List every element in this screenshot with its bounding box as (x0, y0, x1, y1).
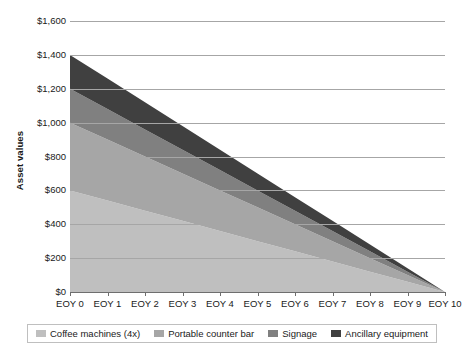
x-axis-tick-mark (445, 292, 446, 296)
x-axis-tick-mark (333, 292, 334, 296)
gridline (70, 190, 445, 191)
gridline (70, 55, 445, 56)
x-axis-tick-mark (295, 292, 296, 296)
x-axis-tick-label: EOY 8 (356, 298, 384, 310)
legend-swatch-icon (331, 330, 341, 337)
plot-area (70, 21, 445, 292)
legend-swatch-icon (268, 330, 278, 337)
x-axis-tick-mark (220, 292, 221, 296)
legend-item[interactable]: Portable counter bar (154, 328, 254, 339)
x-axis-tick-label: EOY 7 (319, 298, 347, 310)
legend-swatch-icon (36, 330, 46, 337)
y-axis-tick-label: $0 (18, 287, 66, 297)
y-axis-tick-label: $400 (18, 219, 66, 229)
gridline (70, 157, 445, 158)
y-axis-tick-label: $800 (18, 152, 66, 162)
x-axis-tick-label: EOY 0 (56, 298, 84, 310)
gridline (70, 89, 445, 90)
x-axis-tick-label: EOY 1 (94, 298, 122, 310)
x-axis-tick-mark (408, 292, 409, 296)
gridline (70, 21, 445, 22)
legend-item[interactable]: Signage (268, 328, 317, 339)
gridline (70, 224, 445, 225)
legend-item[interactable]: Ancillary equipment (331, 328, 428, 339)
legend-swatch-icon (154, 330, 164, 337)
legend-label: Coffee machines (4x) (50, 328, 140, 339)
y-axis-tick-label: $1,200 (18, 84, 66, 94)
x-axis-tick-mark (370, 292, 371, 296)
legend-label: Signage (282, 328, 317, 339)
x-axis-tick-label: EOY 2 (131, 298, 159, 310)
chart-legend: Coffee machines (4x)Portable counter bar… (27, 324, 437, 343)
x-axis-tick-mark (70, 292, 71, 296)
x-axis-tick-label: EOY 6 (281, 298, 309, 310)
x-axis-tick-label: EOY 9 (394, 298, 422, 310)
x-axis-tick-mark (258, 292, 259, 296)
y-axis-tick-label: $1,400 (18, 50, 66, 60)
x-axis-tick-label: EOY 4 (206, 298, 234, 310)
y-axis-tick-label: $1,000 (18, 118, 66, 128)
x-axis-tick-mark (183, 292, 184, 296)
x-axis-tick-mark (145, 292, 146, 296)
x-axis-tick-label: EOY 3 (169, 298, 197, 310)
legend-item[interactable]: Coffee machines (4x) (36, 328, 140, 339)
x-axis-tick-label: EOY 5 (244, 298, 272, 310)
gridline (70, 258, 445, 259)
x-axis-tick-mark (108, 292, 109, 296)
legend-label: Ancillary equipment (345, 328, 428, 339)
y-axis-tick-label: $1,600 (18, 16, 66, 26)
x-axis-tick-labels: EOY 0EOY 1EOY 2EOY 3EOY 4EOY 5EOY 6EOY 7… (0, 298, 464, 314)
gridline (70, 123, 445, 124)
legend-label: Portable counter bar (168, 328, 254, 339)
y-axis-tick-label: $600 (18, 185, 66, 195)
x-axis-tick-label: EOY 10 (428, 298, 461, 310)
y-axis-tick-label: $200 (18, 253, 66, 263)
stacked-area-chart: Asset values $1,600$1,400$1,200$1,000$80… (0, 0, 464, 361)
